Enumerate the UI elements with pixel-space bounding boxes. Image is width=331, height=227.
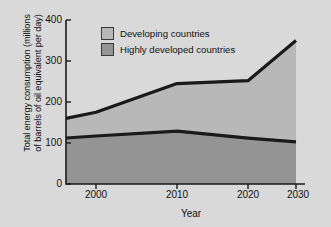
x-axis-ticks: 2000 2010 2020 2030	[0, 189, 331, 205]
legend-item-highly-developed-countries: Highly developed countries	[101, 43, 235, 56]
x-tick-2030: 2030	[278, 189, 318, 200]
chart-figure: Total energy consumption (millionsof bar…	[0, 0, 331, 227]
x-tick-2020: 2020	[228, 189, 268, 200]
x-tick-2000: 2000	[76, 189, 116, 200]
x-tick-2010: 2010	[157, 189, 197, 200]
legend-item-developing-countries: Developing countries	[101, 27, 235, 40]
legend-swatch-icon	[101, 43, 114, 56]
legend-label-highly-developed-countries: Highly developed countries	[120, 44, 235, 55]
x-axis-label: Year	[60, 208, 322, 219]
chart-legend: Developing countries Highly developed co…	[101, 27, 235, 56]
legend-label-developing-countries: Developing countries	[120, 28, 210, 39]
legend-swatch-icon	[101, 27, 114, 40]
